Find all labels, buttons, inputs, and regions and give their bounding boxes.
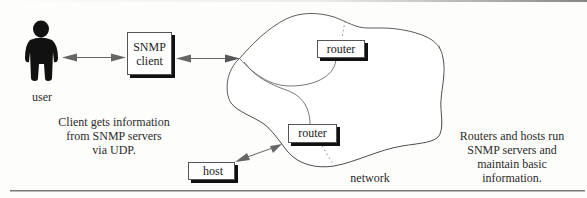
snmp-client-box: SNMP client: [127, 32, 172, 75]
router-1-label: router: [327, 42, 356, 56]
router-2-label: router: [298, 126, 327, 140]
router-box-1: router: [317, 40, 365, 58]
bottom-rule: [10, 190, 585, 192]
client-caption-line: from SNMP servers: [54, 129, 174, 143]
client-caption-line: via UDP.: [54, 143, 174, 157]
arrow-host-network: [235, 144, 282, 162]
arrow-user-client: [62, 54, 126, 62]
top-rule: [0, 0, 587, 2]
server-caption-line: information.: [450, 171, 574, 185]
host-box: host: [188, 162, 235, 180]
snmp-client-line1: SNMP: [128, 40, 171, 54]
server-caption-line: SNMP servers and: [450, 143, 574, 157]
network-label: network: [345, 172, 395, 185]
client-caption: Client gets information from SNMP server…: [54, 115, 174, 157]
arrow-client-network: [176, 55, 240, 63]
server-caption: Routers and hosts run SNMP servers and m…: [450, 129, 574, 185]
network-cloud: [227, 13, 444, 166]
user-icon: [25, 21, 58, 82]
host-label: host: [203, 164, 223, 178]
user-label: user: [28, 91, 56, 104]
snmp-client-line2: client: [128, 54, 171, 68]
router-box-2: router: [288, 124, 337, 143]
server-caption-line: Routers and hosts run: [450, 129, 574, 143]
client-caption-line: Client gets information: [54, 115, 174, 129]
server-caption-line: maintain basic: [450, 157, 574, 171]
